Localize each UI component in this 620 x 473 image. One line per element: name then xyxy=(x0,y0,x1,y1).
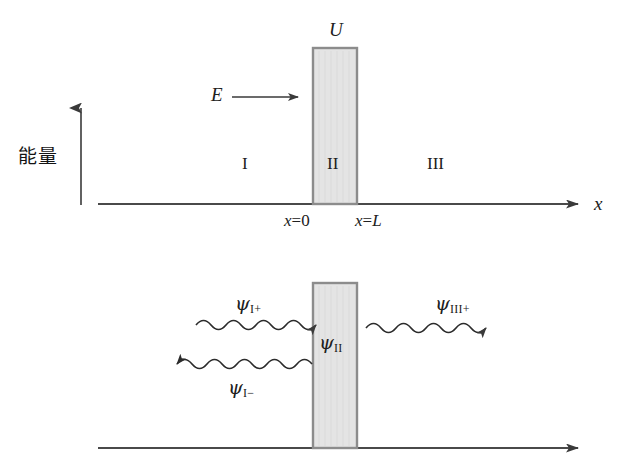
reflected-wave-subscript: I− xyxy=(243,386,254,400)
tunneling-barrier-figure: U 能量 E I II III x=0 x=L x ψI+ ψII ψIII+ … xyxy=(0,0,620,473)
x-tick-origin-value: 0 xyxy=(301,211,310,230)
incident-energy-label: E xyxy=(211,85,223,104)
x-tick-origin: x=0 xyxy=(284,212,310,229)
transmitted-wave-label: ψIII+ xyxy=(435,294,470,315)
region-label-one: I xyxy=(242,155,248,172)
region-label-two: II xyxy=(327,155,338,172)
x-axis-label-top: x xyxy=(594,194,602,213)
incident-wave-psi: ψ xyxy=(235,292,250,314)
transmitted-wave-subscript: III+ xyxy=(450,302,470,316)
incident-wave-label: ψI+ xyxy=(235,294,261,315)
potential-barrier-top xyxy=(313,48,357,204)
x-tick-width-var: x xyxy=(355,211,363,230)
x-tick-width-value: L xyxy=(372,211,381,230)
x-tick-origin-var: x xyxy=(284,211,292,230)
region-label-three: III xyxy=(427,155,444,172)
transmitted-wave-psi: ψ xyxy=(435,292,450,314)
reflected-wave-psi: ψ xyxy=(228,376,243,398)
barrier-wave-label: ψII xyxy=(319,333,343,354)
x-tick-width-eq: = xyxy=(363,211,373,230)
barrier-height-label: U xyxy=(329,20,343,39)
x-tick-origin-eq: = xyxy=(292,211,302,230)
incident-wave-subscript: I+ xyxy=(250,302,261,316)
reflected-wave-path xyxy=(177,360,312,369)
barrier-wave-subscript: II xyxy=(334,341,343,355)
barrier-wave-psi: ψ xyxy=(319,331,334,353)
x-tick-barrier-width: x=L xyxy=(355,212,382,229)
incident-wave-path xyxy=(196,321,316,330)
reflected-wave-label: ψI− xyxy=(228,378,254,399)
transmitted-wave-path xyxy=(366,324,486,333)
potential-barrier-bottom xyxy=(313,283,357,448)
figure-vector-layer xyxy=(0,0,620,473)
energy-axis-label: 能量 xyxy=(18,147,58,166)
